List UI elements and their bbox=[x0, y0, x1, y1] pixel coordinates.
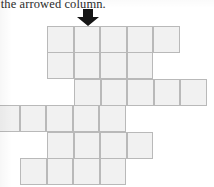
grid-cell[interactable] bbox=[73, 158, 100, 185]
grid-cell[interactable] bbox=[180, 79, 207, 106]
grid-cell[interactable] bbox=[74, 26, 101, 53]
grid-cell[interactable] bbox=[74, 132, 101, 159]
grid-cell[interactable] bbox=[100, 26, 127, 53]
grid-cell[interactable] bbox=[127, 132, 154, 159]
grid-cell[interactable] bbox=[73, 105, 100, 132]
grid-cell[interactable] bbox=[47, 132, 74, 159]
grid-cell[interactable] bbox=[101, 79, 128, 106]
grid-cell[interactable] bbox=[154, 79, 181, 106]
grid-cell[interactable] bbox=[127, 52, 154, 79]
grid-cell[interactable] bbox=[20, 105, 47, 132]
grid-cell[interactable] bbox=[100, 52, 127, 79]
puzzle-figure: l the arrowed column. bbox=[0, 0, 214, 187]
grid-cell[interactable] bbox=[20, 158, 47, 185]
grid-cell[interactable] bbox=[153, 26, 180, 53]
grid-cell[interactable] bbox=[47, 26, 74, 53]
arrow-down-icon bbox=[76, 9, 100, 26]
grid-cell[interactable] bbox=[127, 79, 154, 106]
grid-cell[interactable] bbox=[0, 105, 20, 132]
grid-cell[interactable] bbox=[47, 158, 74, 185]
grid-cell[interactable] bbox=[100, 132, 127, 159]
grid-cell[interactable] bbox=[99, 105, 126, 132]
grid-cell[interactable] bbox=[100, 158, 127, 185]
grid-cell[interactable] bbox=[46, 105, 73, 132]
grid-cell[interactable] bbox=[127, 26, 154, 53]
caption-text: l the arrowed column. bbox=[0, 0, 214, 11]
grid-cell[interactable] bbox=[47, 52, 74, 79]
grid-cell[interactable] bbox=[74, 79, 101, 106]
grid-cell[interactable] bbox=[74, 52, 101, 79]
